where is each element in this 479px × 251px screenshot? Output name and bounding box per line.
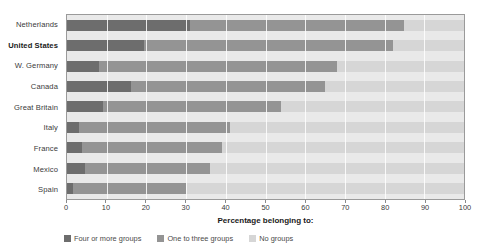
- bar-row: [67, 117, 464, 137]
- category-label: France: [0, 138, 62, 159]
- bar-segment: [67, 142, 82, 153]
- bar-segment: [186, 183, 464, 194]
- stacked-bar-chart: NetherlandsUnited StatesW. GermanyCanada…: [0, 0, 479, 251]
- bar-segment: [404, 20, 464, 31]
- bar-segment: [131, 81, 326, 92]
- legend: Four or more groupsOne to three groupsNo…: [64, 234, 309, 243]
- bar-segment: [67, 40, 144, 51]
- category-label: Spain: [0, 179, 62, 200]
- legend-item: No groups: [249, 234, 293, 243]
- category-label: Mexico: [0, 159, 62, 180]
- stacked-bar: [67, 163, 464, 174]
- bar-segment: [73, 183, 186, 194]
- bar-segment: [85, 163, 210, 174]
- bar-row: [67, 158, 464, 178]
- bar-rows: [67, 15, 464, 199]
- bar-segment: [144, 40, 392, 51]
- axis-tick-label: 70: [341, 203, 349, 212]
- bar-row: [67, 97, 464, 117]
- axis-tick-label: 30: [182, 203, 190, 212]
- bar-segment: [99, 61, 337, 72]
- stacked-bar: [67, 101, 464, 112]
- bar-segment: [325, 81, 464, 92]
- bar-segment: [67, 122, 79, 133]
- legend-swatch-icon: [249, 235, 256, 242]
- bar-segment: [82, 142, 222, 153]
- category-label: W. Germany: [0, 55, 62, 76]
- axis-tick-label: 50: [261, 203, 269, 212]
- plot-area: [66, 14, 465, 200]
- x-axis-title: Percentage belonging to:: [66, 216, 465, 225]
- bar-segment: [103, 101, 282, 112]
- bar-segment: [337, 61, 464, 72]
- bar-row: [67, 179, 464, 199]
- bar-segment: [210, 163, 464, 174]
- legend-label: Four or more groups: [74, 234, 141, 243]
- bar-row: [67, 15, 464, 35]
- category-label: Canada: [0, 76, 62, 97]
- axis-tick-label: 0: [64, 203, 68, 212]
- bar-segment: [79, 122, 230, 133]
- category-label: United States: [0, 35, 62, 56]
- bar-segment: [67, 81, 131, 92]
- bar-segment: [190, 20, 404, 31]
- axis-tick-label: 90: [421, 203, 429, 212]
- category-label: Italy: [0, 117, 62, 138]
- bar-segment: [281, 101, 464, 112]
- bar-segment: [222, 142, 464, 153]
- bar-segment: [393, 40, 464, 51]
- legend-label: No groups: [259, 234, 293, 243]
- bar-segment: [67, 61, 99, 72]
- category-label: Netherlands: [0, 14, 62, 35]
- stacked-bar: [67, 183, 464, 194]
- bar-segment: [67, 20, 190, 31]
- stacked-bar: [67, 81, 464, 92]
- axis-tick-label: 100: [459, 203, 471, 212]
- axis-tick-label: 40: [221, 203, 229, 212]
- bar-segment: [67, 101, 103, 112]
- legend-swatch-icon: [157, 235, 164, 242]
- legend-item: One to three groups: [157, 234, 233, 243]
- bar-row: [67, 35, 464, 55]
- axis-tick-label: 80: [381, 203, 389, 212]
- stacked-bar: [67, 40, 464, 51]
- axis-tick-label: 20: [142, 203, 150, 212]
- category-label: Great Britain: [0, 97, 62, 118]
- bar-row: [67, 138, 464, 158]
- bar-row: [67, 76, 464, 96]
- bar-segment: [230, 122, 464, 133]
- axis-tick-label: 60: [301, 203, 309, 212]
- stacked-bar: [67, 122, 464, 133]
- x-axis: 0102030405060708090100: [66, 200, 465, 214]
- category-axis-labels: NetherlandsUnited StatesW. GermanyCanada…: [0, 14, 62, 200]
- stacked-bar: [67, 142, 464, 153]
- bar-row: [67, 56, 464, 76]
- stacked-bar: [67, 61, 464, 72]
- legend-label: One to three groups: [167, 234, 233, 243]
- legend-swatch-icon: [64, 235, 71, 242]
- stacked-bar: [67, 20, 464, 31]
- axis-tick-label: 10: [102, 203, 110, 212]
- legend-item: Four or more groups: [64, 234, 141, 243]
- bar-segment: [67, 163, 85, 174]
